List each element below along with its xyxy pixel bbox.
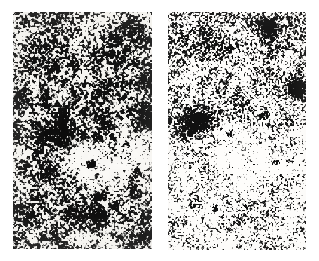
right-plate — [168, 12, 306, 250]
left-plate-canvas — [13, 12, 152, 249]
figure-root — [0, 0, 319, 261]
left-plate — [13, 12, 152, 249]
right-plate-canvas — [168, 12, 306, 250]
